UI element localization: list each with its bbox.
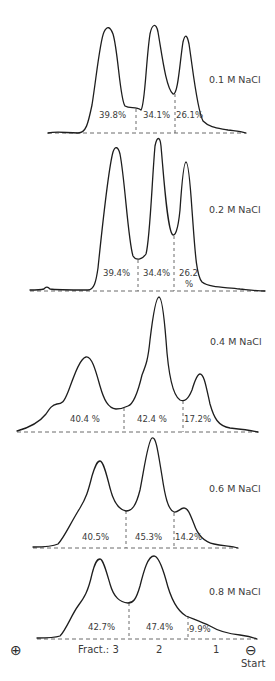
condition-label: 0.2 M NaCl — [209, 204, 261, 215]
anode-plus-icon: ⊕ — [10, 642, 22, 658]
electrophoresis-figure: 39.8% 34.1% 26.1% 0.1 M NaCl 39.4% 34.4%… — [0, 0, 275, 681]
condition-label: 0.4 M NaCl — [210, 336, 262, 347]
fraction-2-percent: 45.3% — [135, 531, 162, 542]
fraction-2-label: 2 — [156, 644, 162, 655]
fraction-1-label: 1 — [213, 644, 219, 655]
condition-label: 0.6 M NaCl — [209, 483, 261, 494]
fraction-3-label: Fract.: 3 — [78, 644, 119, 655]
fraction-1-percent: 17.2% — [184, 413, 211, 424]
fraction-1-percent: 9.9% — [189, 623, 211, 634]
panel-0-2m-nacl: 39.4% 34.4% 26.2 % 0.2 M NaCl — [30, 139, 265, 292]
x-axis: ⊕ Fract.: 3 2 1 ⊖ Start — [10, 642, 266, 669]
fraction-3-percent: 40.5% — [82, 531, 109, 542]
density-trace — [17, 297, 258, 432]
fraction-3-percent: 40.4 % — [70, 413, 100, 424]
cathode-minus-icon: ⊖ — [245, 642, 257, 658]
panel-0-4m-nacl: 40.4 % 42.4 % 17.2% 0.4 M NaCl — [17, 297, 262, 432]
fraction-2-percent: 42.4 % — [137, 413, 167, 424]
fraction-3-percent: 39.4% — [103, 267, 130, 278]
panel-0-1m-nacl: 39.8% 34.1% 26.1% 0.1 M NaCl — [48, 25, 261, 133]
panel-0-8m-nacl: 42.7% 47.4% 9.9% 0.8 M NaCl — [37, 556, 261, 639]
fraction-3-percent: 42.7% — [88, 621, 115, 632]
fraction-2-percent: 47.4% — [146, 621, 173, 632]
fraction-1-percent: 14.2% — [175, 531, 202, 542]
start-label: Start — [241, 658, 266, 669]
condition-label: 0.8 M NaCl — [209, 586, 261, 597]
panel-0-6m-nacl: 40.5% 45.3% 14.2% 0.6 M NaCl — [33, 438, 261, 548]
fraction-1-percent: 26.2 — [179, 267, 198, 278]
fraction-2-percent: 34.1% — [143, 109, 170, 120]
fraction-3-percent: 39.8% — [99, 109, 126, 120]
fraction-2-percent: 34.4% — [143, 267, 170, 278]
condition-label: 0.1 M NaCl — [209, 74, 261, 85]
fraction-1-percent-sign: % — [185, 278, 193, 289]
fraction-1-percent: 26.1% — [176, 109, 203, 120]
